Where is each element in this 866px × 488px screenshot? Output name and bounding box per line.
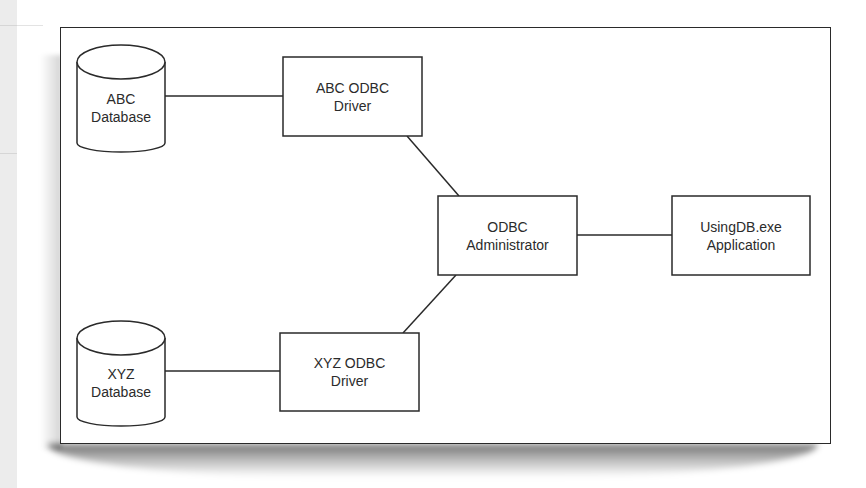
abc-database-label: ABC Database [77,86,165,130]
abc-database-label-line1: ABC [107,90,136,108]
abc-database-label-line2: Database [91,108,151,126]
abc-driver-label-line2: Driver [334,97,371,115]
xyz-database-label-line2: Database [91,383,151,401]
odbc-admin-label-line2: Administrator [466,236,548,254]
edge-xyz-driver-to-admin [403,275,456,333]
abc-driver-label-line1: ABC ODBC [316,79,389,97]
xyz-driver-label: XYZ ODBC Driver [280,333,419,411]
xyz-database-label: XYZ Database [77,361,165,405]
xyz-driver-label-line1: XYZ ODBC [314,354,386,372]
app-label-line1: UsingDB.exe [700,218,782,236]
app-label: UsingDB.exe Application [672,196,810,275]
app-label-line2: Application [707,236,776,254]
abc-driver-label: ABC ODBC Driver [283,57,422,136]
xyz-database-label-line1: XYZ [107,365,134,383]
odbc-admin-label-line1: ODBC [487,218,527,236]
odbc-admin-label: ODBC Administrator [438,196,577,275]
xyz-driver-label-line2: Driver [331,372,368,390]
edge-abc-driver-to-admin [407,136,459,196]
